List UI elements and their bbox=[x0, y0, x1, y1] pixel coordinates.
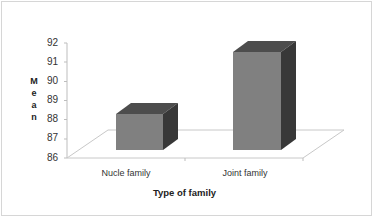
chart-plot bbox=[0, 0, 373, 217]
y-tick-label: 87 bbox=[36, 132, 58, 143]
y-axis-title-letter: e bbox=[29, 88, 39, 98]
x-category-label: Joint family bbox=[200, 168, 290, 178]
y-tick-label: 88 bbox=[36, 113, 58, 124]
y-tick-label: 91 bbox=[36, 56, 58, 67]
x-category-label: Nucle family bbox=[81, 168, 171, 178]
y-tick-label: 89 bbox=[36, 94, 58, 105]
bar-joint-family bbox=[233, 41, 296, 150]
y-tick-label: 90 bbox=[36, 75, 58, 86]
y-axis-title-letter: M bbox=[29, 76, 39, 86]
bar-nucle-family bbox=[116, 103, 178, 150]
y-axis-title-letter: n bbox=[29, 112, 39, 122]
y-axis-title-letter: a bbox=[29, 100, 39, 110]
chart-floor bbox=[67, 130, 344, 158]
y-tick-label: 86 bbox=[36, 152, 58, 163]
x-axis-title: Type of family bbox=[0, 187, 371, 198]
y-tick-label: 92 bbox=[36, 37, 58, 48]
